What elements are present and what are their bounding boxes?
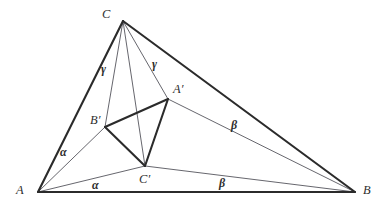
angle-label-gamma-left: γ bbox=[101, 63, 106, 75]
cevian-B-Ap bbox=[168, 99, 355, 192]
angle-label-alpha-lower: α bbox=[92, 179, 99, 191]
vertex-label-bp: B′ bbox=[90, 114, 101, 127]
geometry-figure: ABCA′B′C′ γγααββ bbox=[0, 0, 384, 214]
angle-label-beta-upper: β bbox=[231, 119, 237, 131]
angle-label-gamma-right: γ bbox=[152, 58, 157, 70]
diagram-canvas bbox=[0, 0, 384, 214]
vertex-label-b: B bbox=[363, 184, 371, 197]
side-CB bbox=[123, 21, 355, 192]
cevian-C-Ap bbox=[123, 21, 168, 99]
side-AC bbox=[38, 21, 123, 192]
angle-label-beta-lower: β bbox=[219, 177, 225, 189]
cevian-C-Cp bbox=[123, 21, 145, 166]
cevian-line-group bbox=[38, 21, 355, 192]
triangle-outline-group bbox=[38, 21, 355, 192]
inner-Bp-Cp bbox=[105, 127, 145, 166]
inner-Ap-Bp bbox=[105, 99, 168, 127]
vertex-label-a: A bbox=[16, 184, 24, 197]
angle-label-alpha-upper: α bbox=[60, 146, 67, 158]
inner-Cp-Ap bbox=[145, 99, 168, 166]
vertex-label-ap: A′ bbox=[173, 83, 184, 96]
vertex-label-cp: C′ bbox=[139, 173, 150, 186]
vertex-label-c: C bbox=[102, 8, 111, 21]
